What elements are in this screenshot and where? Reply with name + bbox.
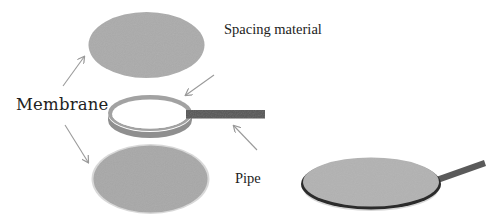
spacing-arrow [186, 75, 214, 95]
top-membrane [89, 12, 205, 78]
pipe-label: Pipe [235, 170, 261, 187]
spacing-ring [108, 95, 192, 138]
membrane-arrow-down [65, 125, 88, 162]
pipe-arrow [234, 126, 257, 150]
membrane-arrow-up [63, 57, 84, 86]
spacing-material-label: Spacing material [224, 21, 322, 38]
bottom-membrane [92, 144, 210, 214]
pipe-bar [186, 110, 265, 119]
assembled-module [301, 158, 486, 212]
membrane-label: Membrane [16, 95, 109, 114]
